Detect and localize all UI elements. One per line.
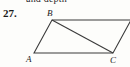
- vertex-label-a: A: [26, 55, 32, 64]
- vertex-label-c: C: [110, 56, 116, 65]
- vertex-label-b: B: [47, 9, 53, 18]
- diagonal-bc: [52, 20, 113, 53]
- figure-page: and depth 27. A B C: [0, 0, 130, 67]
